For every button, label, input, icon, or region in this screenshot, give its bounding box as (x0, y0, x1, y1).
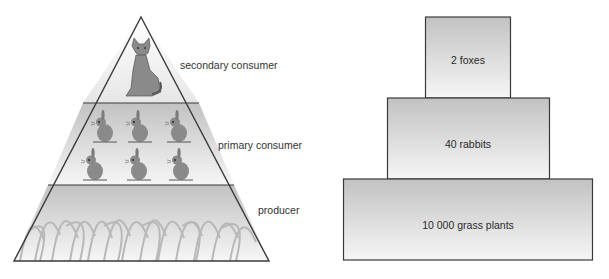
label-foxes: 2 foxes (451, 54, 485, 66)
label-rabbits: 40 rabbits (445, 138, 491, 150)
label-producer: producer (258, 204, 300, 216)
label-grass-plants: 10 000 grass plants (422, 219, 514, 231)
label-primary-consumer: primary consumer (218, 139, 303, 151)
block-pyramid: 2 foxes 40 rabbits 10 000 grass plants (344, 17, 593, 260)
illustrated-pyramid: secondary consumer primary consumer prod… (14, 17, 303, 261)
label-secondary-consumer: secondary consumer (180, 59, 278, 71)
food-pyramid-diagrams: secondary consumer primary consumer prod… (0, 0, 609, 279)
